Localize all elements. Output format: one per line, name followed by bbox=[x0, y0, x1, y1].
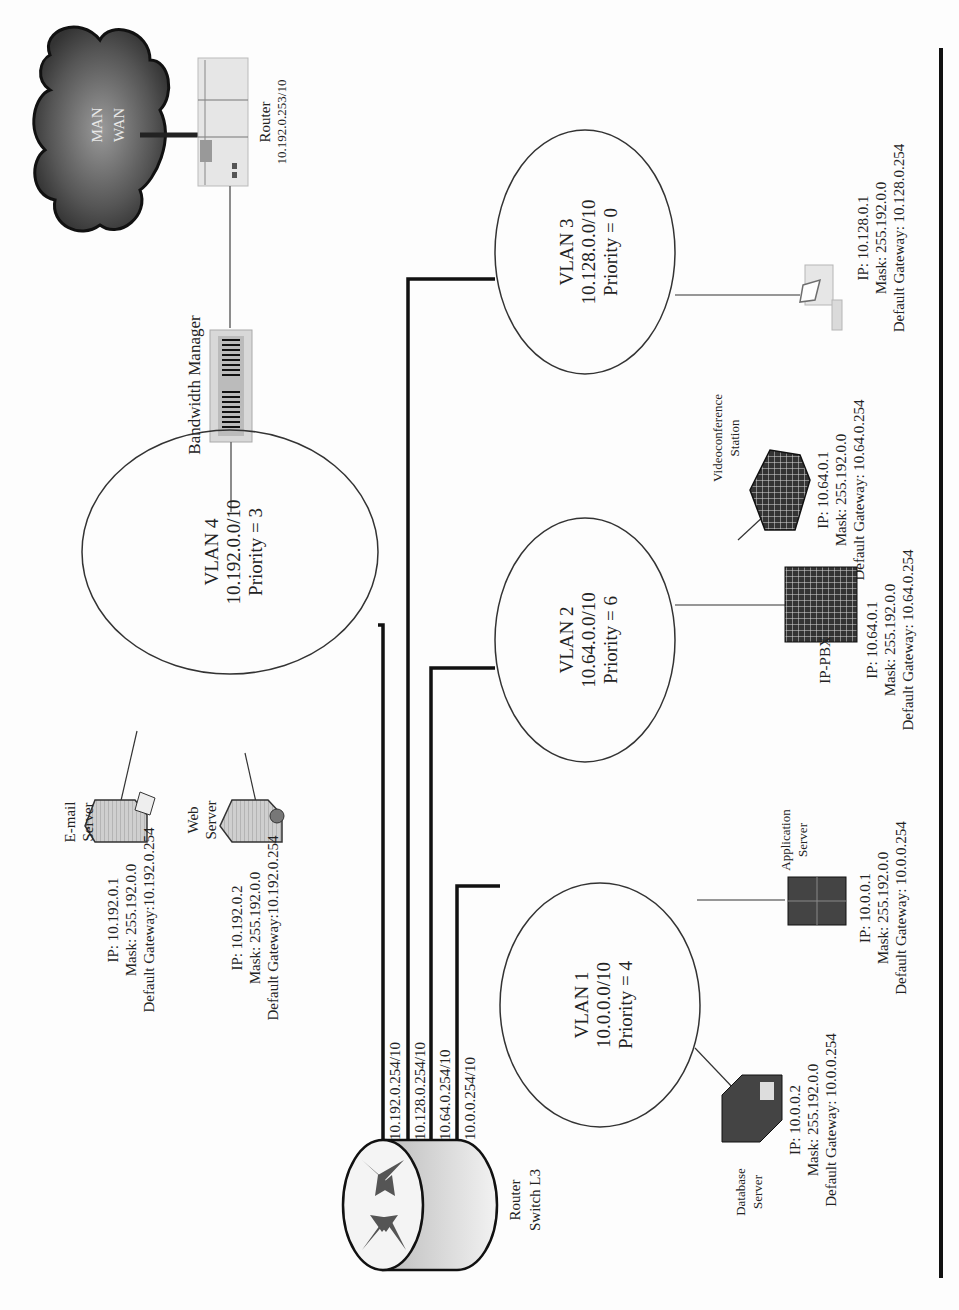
trunk-port-vlan3: 10.128.0.254/10 bbox=[412, 1042, 428, 1140]
ip-pbx-gateway: Default Gateway: 10.64.0.254 bbox=[900, 549, 916, 731]
videoconference-label-1: Videoconference bbox=[710, 394, 725, 482]
ip-pbx-label: IP-PBX bbox=[817, 636, 833, 684]
trunk-port-vlan4: 10.192.0.254/10 bbox=[387, 1042, 403, 1140]
network-diagram: MAN WAN Router 10.192.0.253/10 bbox=[0, 0, 959, 1310]
ip-pbx-ip: IP: 10.64.0.1 bbox=[864, 601, 880, 679]
wan-cloud-label-1: MAN bbox=[89, 107, 105, 142]
router-label: Router bbox=[257, 102, 273, 143]
email-server-label-2: Server bbox=[80, 802, 96, 841]
database-server-label-1: Database bbox=[733, 1168, 748, 1216]
web-server-ip: IP: 10.192.0.2 bbox=[229, 885, 245, 970]
workstation-ip: IP: 10.128.0.1 bbox=[855, 195, 871, 280]
wan-cloud-label-2: WAN bbox=[111, 108, 127, 142]
application-server-label-2: Server bbox=[795, 822, 810, 857]
l3-switch-label-1: Router bbox=[507, 1180, 523, 1221]
vlan4-name: VLAN 4 bbox=[201, 518, 222, 586]
web-server-gateway: Default Gateway:10.192.0.254 bbox=[265, 835, 281, 1020]
application-server-ip: IP: 10.0.0.1 bbox=[857, 873, 873, 943]
application-server-gateway: Default Gateway: 10.0.0.254 bbox=[893, 821, 909, 995]
vlan4-subnet: 10.192.0.0/10 bbox=[223, 499, 244, 604]
application-server-label-1: Application bbox=[778, 809, 793, 871]
database-server-mask: Mask: 255.192.0.0 bbox=[805, 1064, 821, 1177]
vlan2-name: VLAN 2 bbox=[556, 606, 577, 673]
vlan1-priority: Priority = 4 bbox=[615, 961, 636, 1049]
workstation-gateway: Default Gateway: 10.128.0.254 bbox=[891, 143, 907, 332]
application-server-mask: Mask: 255.192.0.0 bbox=[875, 852, 891, 965]
bandwidth-manager-icon bbox=[210, 330, 252, 442]
videoconference-icon bbox=[750, 450, 810, 530]
email-server-mask: Mask: 255.192.0.0 bbox=[123, 864, 139, 977]
router-icon bbox=[198, 58, 248, 186]
workstation-icon bbox=[800, 265, 842, 330]
vlan1-name: VLAN 1 bbox=[571, 971, 592, 1038]
vlan3-subnet: 10.128.0.0/10 bbox=[578, 199, 599, 304]
database-server-ip: IP: 10.0.0.2 bbox=[787, 1085, 803, 1155]
ip-pbx-icon bbox=[785, 567, 857, 642]
l3-switch-label-2: Switch L3 bbox=[527, 1169, 543, 1231]
application-server-icon bbox=[788, 877, 846, 925]
videoconference-mask: Mask: 255.192.0.0 bbox=[833, 434, 849, 547]
trunk-port-vlan1: 10.0.0.254/10 bbox=[462, 1057, 478, 1140]
database-server-label-2: Server bbox=[750, 1174, 765, 1209]
l3-switch-icon bbox=[343, 1140, 497, 1270]
email-server-gateway: Default Gateway:10.192.0.254 bbox=[141, 827, 157, 1012]
router-ip: 10.192.0.253/10 bbox=[274, 80, 289, 165]
vlan3-priority: Priority = 0 bbox=[600, 208, 621, 296]
email-server-label-1: E-mail bbox=[62, 802, 78, 843]
email-server-ip: IP: 10.192.0.1 bbox=[105, 877, 121, 962]
web-server-label-2: Server bbox=[203, 800, 219, 839]
videoconference-label-2: Station bbox=[727, 419, 742, 456]
videoconference-gateway: Default Gateway: 10.64.0.254 bbox=[851, 399, 867, 581]
vlan3-name: VLAN 3 bbox=[556, 218, 577, 285]
workstation-mask: Mask: 255.192.0.0 bbox=[873, 182, 889, 295]
ip-pbx-mask: Mask: 255.192.0.0 bbox=[882, 584, 898, 697]
trunk-port-vlan2: 10.64.0.254/10 bbox=[437, 1050, 453, 1140]
web-server-label-1: Web bbox=[185, 806, 201, 833]
videoconference-ip: IP: 10.64.0.1 bbox=[815, 451, 831, 529]
trunk-lines bbox=[378, 279, 500, 1140]
vlan1-subnet: 10.0.0.0/10 bbox=[593, 962, 614, 1048]
vlan2-subnet: 10.64.0.0/10 bbox=[578, 592, 599, 688]
vlan4-priority: Priority = 3 bbox=[245, 508, 266, 596]
web-server-mask: Mask: 255.192.0.0 bbox=[247, 872, 263, 985]
vlan2-priority: Priority = 6 bbox=[600, 596, 621, 684]
database-server-gateway: Default Gateway: 10.0.0.254 bbox=[823, 1033, 839, 1207]
